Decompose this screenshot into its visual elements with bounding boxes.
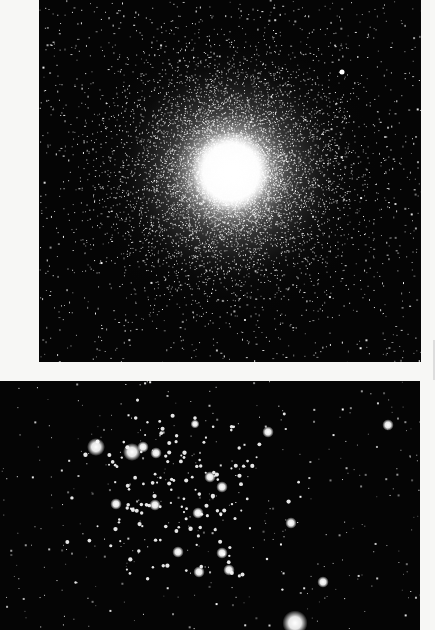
globular-cluster-photo [39,0,421,362]
open-cluster-canvas [0,381,420,630]
open-cluster-photo [0,381,420,630]
globular-cluster-canvas [39,0,421,362]
